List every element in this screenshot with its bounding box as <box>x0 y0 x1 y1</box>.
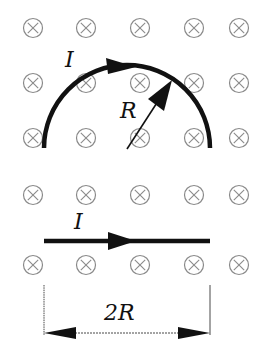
field-into-page-icon <box>230 74 249 93</box>
radius-label: R <box>119 98 137 123</box>
field-into-page-icon <box>24 74 43 93</box>
field-into-page-icon <box>77 256 96 275</box>
field-into-page-icon <box>230 186 249 205</box>
field-into-page-icon <box>230 129 249 148</box>
field-into-page-icon <box>24 256 43 275</box>
magnetic-field-grid <box>24 19 249 275</box>
field-into-page-icon <box>131 19 150 38</box>
field-into-page-icon <box>77 129 96 148</box>
field-into-page-icon <box>77 186 96 205</box>
field-into-page-icon <box>185 129 204 148</box>
semicircle-current-arrow-icon <box>106 58 136 74</box>
field-into-page-icon <box>131 186 150 205</box>
field-into-page-icon <box>185 256 204 275</box>
diagram-canvas: I R I 2R <box>0 0 266 359</box>
field-into-page-icon <box>24 186 43 205</box>
field-into-page-icon <box>131 74 150 93</box>
field-into-page-icon <box>24 129 43 148</box>
dimension-arrow-left-icon <box>44 327 76 339</box>
physics-diagram: I R I 2R <box>0 0 266 359</box>
dimension-label: 2R <box>103 300 135 325</box>
field-into-page-icon <box>24 19 43 38</box>
radius-arrow-icon <box>148 80 172 111</box>
field-into-page-icon <box>185 19 204 38</box>
field-into-page-icon <box>77 19 96 38</box>
field-into-page-icon <box>230 256 249 275</box>
straight-current-arrow-icon <box>108 232 136 250</box>
dimension-arrow-right-icon <box>178 327 210 339</box>
semicircle-current-label: I <box>64 47 75 72</box>
field-into-page-icon <box>230 19 249 38</box>
field-into-page-icon <box>131 256 150 275</box>
straight-current-label: I <box>73 209 84 234</box>
field-into-page-icon <box>185 186 204 205</box>
